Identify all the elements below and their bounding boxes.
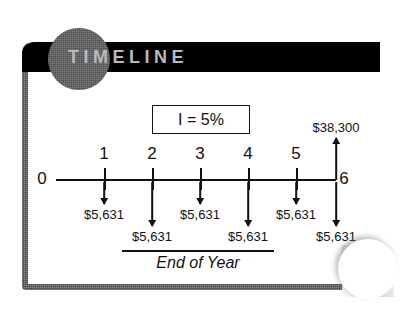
interest-rate-label: I = 5% <box>178 111 224 129</box>
end-of-year-caption: End of Year <box>156 254 239 272</box>
interest-rate-box: I = 5% <box>152 105 250 134</box>
cashflow-arrow-year-5-icon <box>295 182 297 204</box>
cashflow-label-year-3: $5,631 <box>180 207 220 222</box>
year-label-6: 6 <box>339 169 348 189</box>
year-label-5: 5 <box>291 144 300 164</box>
future-value-label: $38,300 <box>313 120 360 135</box>
year-label-4: 4 <box>243 144 252 164</box>
cashflow-arrow-year-3-icon <box>199 182 201 204</box>
future-value-arrow-icon <box>335 138 337 180</box>
timeline-axis <box>56 179 336 181</box>
cashflow-arrow-year-1-icon <box>103 182 105 204</box>
page-curl-arc <box>338 239 398 299</box>
cashflow-label-year-4: $5,631 <box>228 229 268 244</box>
cashflow-label-year-5: $5,631 <box>276 207 316 222</box>
end-of-year-rule <box>122 250 274 252</box>
year-label-2: 2 <box>147 144 156 164</box>
cashflow-label-year-2: $5,631 <box>132 229 172 244</box>
cashflow-arrow-year-4-icon <box>247 182 249 226</box>
cashflow-label-year-6: $5,631 <box>316 229 356 244</box>
timeline-figure: TIMELINE I = 5% 0 6 1 2 3 4 5 $38,300 $5… <box>0 0 408 311</box>
year-label-3: 3 <box>195 144 204 164</box>
year-label-0: 0 <box>37 169 46 189</box>
cashflow-label-year-1: $5,631 <box>84 207 124 222</box>
page-title: TIMELINE <box>68 44 188 70</box>
cashflow-arrow-year-6-icon <box>335 182 337 226</box>
timeline-diagram: 0 6 1 2 3 4 5 $38,300 $5,631 $5,631 $5,6… <box>28 72 380 284</box>
year-label-1: 1 <box>99 144 108 164</box>
cashflow-arrow-year-2-icon <box>151 182 153 226</box>
